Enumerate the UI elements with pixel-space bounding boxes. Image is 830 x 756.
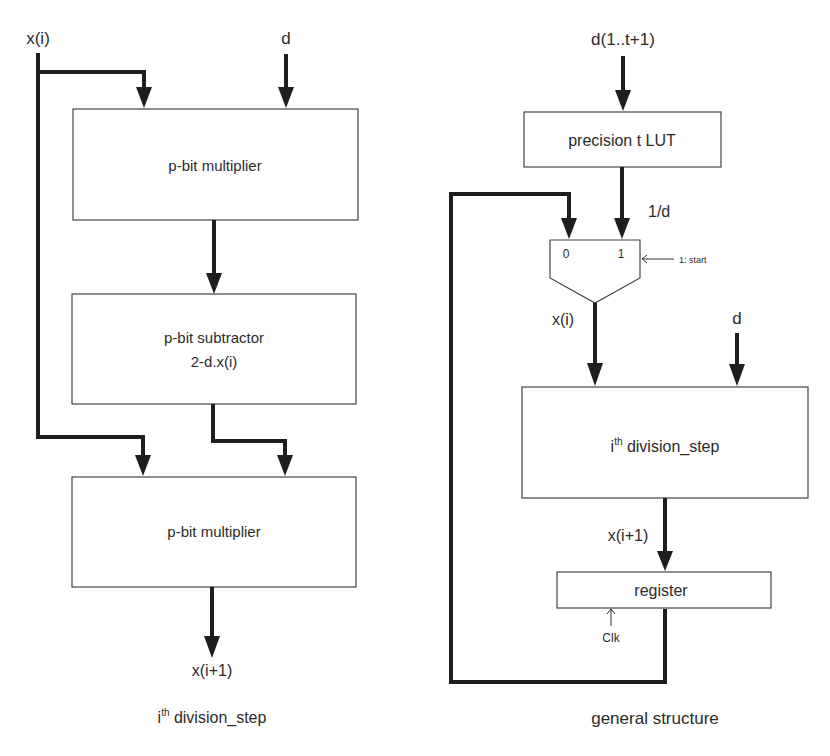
- caption-superscript: th: [161, 707, 169, 718]
- label-clk: Clk: [602, 631, 620, 645]
- caption-division-step: ith division_step: [158, 707, 267, 727]
- label-x-i-plus-1-output: x(i+1): [192, 662, 232, 679]
- step-superscript: th: [614, 436, 622, 447]
- arrow-to-subtractor: [206, 273, 222, 294]
- arrow-to-division-step: [587, 363, 603, 386]
- label-division-step: ith division_step: [611, 436, 720, 456]
- wire-subtractor-to-multiplier2: [213, 404, 285, 455]
- label-d-1-t-plus-1: d(1..t+1): [591, 30, 655, 49]
- label-p-bit-subtractor: p-bit subtractor: [164, 329, 264, 346]
- caption-general-structure: general structure: [591, 709, 719, 728]
- right-general-structure-diagram: d(1..t+1) precision t LUT 1/d 0 1 1: sta…: [451, 30, 808, 728]
- wire-x-i-branch: [38, 72, 144, 87]
- arrow-output: [204, 636, 220, 658]
- caption-rest: division_step: [169, 709, 266, 727]
- label-subtractor-formula: 2-d.x(i): [191, 353, 238, 370]
- label-d-input: d: [281, 29, 290, 48]
- label-mux-input-0: 0: [563, 247, 570, 261]
- label-x-i-plus-1-right: x(i+1): [608, 527, 648, 544]
- label-x-i-input: x(i): [26, 29, 50, 48]
- arrow-to-mux-input-1: [614, 218, 630, 239]
- label-register: register: [634, 582, 688, 599]
- arrow-d-to-division-step: [729, 364, 745, 386]
- left-division-step-diagram: x(i) d p-bit multiplier p-bit subtractor…: [26, 29, 358, 727]
- label-p-bit-multiplier-2: p-bit multiplier: [167, 523, 260, 540]
- label-x-i-mux-out: x(i): [552, 311, 574, 328]
- label-p-bit-multiplier-1: p-bit multiplier: [168, 157, 261, 174]
- arrow-to-mux-input-0: [561, 218, 577, 239]
- arrow-subtractor-to-multiplier2: [277, 455, 293, 476]
- label-precision-lut: precision t LUT: [568, 132, 676, 149]
- arrow-to-register: [657, 551, 673, 571]
- arrow-d-to-multiplier1: [278, 87, 294, 108]
- block-p-bit-subtractor: [72, 294, 356, 404]
- label-one-over-d: 1/d: [648, 203, 670, 220]
- arrow-x-i-to-multiplier1: [136, 87, 152, 108]
- label-start-signal: 1: start: [679, 255, 707, 265]
- label-mux-input-1: 1: [618, 247, 625, 261]
- diagram-canvas: x(i) d p-bit multiplier p-bit subtractor…: [0, 0, 830, 756]
- arrow-x-i-to-multiplier2: [135, 455, 151, 476]
- step-rest: division_step: [622, 438, 719, 456]
- arrow-to-lut: [615, 90, 631, 111]
- label-d-right: d: [732, 309, 741, 328]
